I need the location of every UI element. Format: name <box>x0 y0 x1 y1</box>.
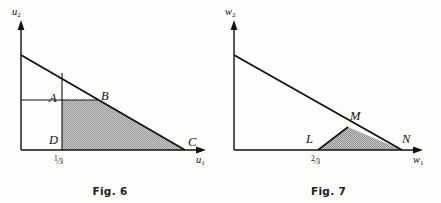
tick-denominator: 3 <box>316 157 320 166</box>
figure-6-caption: Fig. 6 <box>0 185 220 197</box>
y-axis-label: u2 <box>12 7 21 19</box>
y-axis-label: w2 <box>225 7 236 19</box>
x-axis-label: w1 <box>413 155 424 167</box>
shaded-region-dbc <box>62 100 185 150</box>
point-label-n: N <box>402 133 410 146</box>
figure-6-plot <box>0 0 220 175</box>
y-axis-label-base: w <box>225 6 232 17</box>
point-label-l: L <box>306 133 313 146</box>
point-label-c: C <box>188 136 196 149</box>
figure-7-caption: Fig. 7 <box>216 185 441 197</box>
x-axis-label-sub: 1 <box>201 159 205 167</box>
figure-7-plot <box>216 0 441 175</box>
figure-7: L M N w2 w1 2⁄3 Fig. 7 <box>216 0 441 203</box>
y-axis-arrowhead <box>231 20 238 30</box>
tick-denominator: 3 <box>59 157 63 166</box>
x-axis-arrowhead <box>413 147 423 154</box>
shaded-region-lmn <box>318 127 402 150</box>
budget-line <box>234 55 402 150</box>
point-label-a: A <box>49 92 57 105</box>
x-axis-label: u1 <box>196 155 205 167</box>
x-axis-arrowhead <box>196 147 206 154</box>
point-label-b: B <box>101 90 109 103</box>
point-label-m: M <box>350 110 360 123</box>
x-axis-label-sub: 1 <box>420 159 424 167</box>
x-axis-tick-two-thirds: 2⁄3 <box>311 155 320 166</box>
x-axis-tick-one-third: 1⁄3 <box>54 155 63 166</box>
point-label-d: D <box>49 134 58 147</box>
y-axis-label-sub: 2 <box>17 11 21 19</box>
y-axis-label-sub: 2 <box>232 11 236 19</box>
y-axis-arrowhead <box>18 20 25 30</box>
figure-6: A B C D u2 u1 1⁄3 Fig. 6 <box>0 0 220 203</box>
figure-page: A B C D u2 u1 1⁄3 Fig. 6 <box>0 0 441 203</box>
x-axis-label-base: w <box>413 154 420 165</box>
